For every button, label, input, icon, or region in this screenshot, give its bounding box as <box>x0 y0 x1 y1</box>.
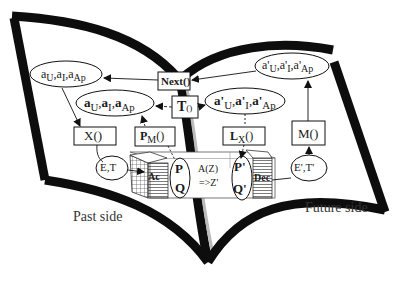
dec-label: Dec <box>254 173 270 183</box>
book-outline <box>12 16 385 262</box>
t-label: T() <box>177 100 192 114</box>
q-label: Q <box>175 181 185 194</box>
future-params-top-label: a'U,a'I,a'Ap <box>262 59 313 74</box>
et-label: E,T <box>100 162 116 173</box>
ac-label: Ac <box>148 172 160 182</box>
past-params-bold-label: aU,aI,aAp <box>84 96 135 112</box>
pm-label: PM() <box>140 130 164 145</box>
next-label: Next() <box>161 76 190 87</box>
p-prime-label: P' <box>234 160 246 173</box>
m-label: M() <box>298 127 318 140</box>
transform-line2: =>Z' <box>199 178 218 188</box>
past-params-top-label: aU,aI,aAp <box>41 68 86 83</box>
transform-line1: A(Z) <box>198 164 218 174</box>
past-side-label: Past side <box>73 210 122 224</box>
future-params-bold-label: a'U,a'I,a'Ap <box>214 94 276 110</box>
p-label: P <box>175 162 183 175</box>
q-prime-label: Q' <box>233 182 247 195</box>
et-prime-label: E',T' <box>294 162 314 173</box>
diagram-canvas <box>0 0 404 284</box>
lx-label: LX() <box>230 130 253 145</box>
x-label: X() <box>84 129 102 142</box>
future-side-label: Future side <box>305 201 368 215</box>
